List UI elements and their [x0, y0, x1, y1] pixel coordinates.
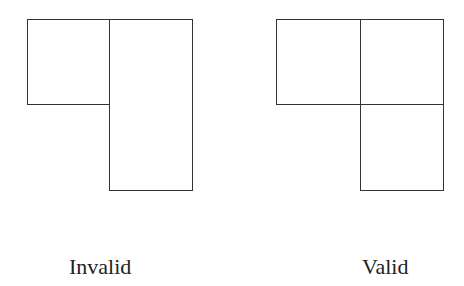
invalid-small-square: [27, 19, 110, 105]
valid-top-left-square: [276, 19, 361, 105]
invalid-tall-rectangle: [109, 19, 193, 191]
valid-label: Valid: [362, 256, 408, 278]
invalid-label: Invalid: [69, 256, 131, 278]
valid-bottom-square: [360, 104, 444, 191]
valid-top-right-square: [360, 19, 444, 105]
